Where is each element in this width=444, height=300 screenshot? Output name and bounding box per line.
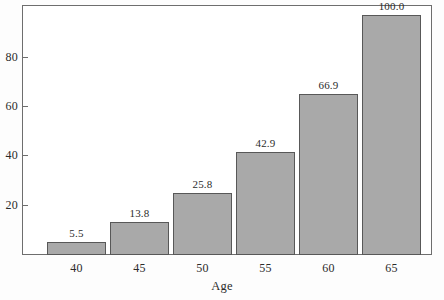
bars-layer <box>22 5 432 255</box>
x-tick-label-55: 55 <box>236 261 295 276</box>
y-tick-label-40: 40 <box>0 148 18 163</box>
bar-value-label-50: 25.8 <box>173 178 232 190</box>
bar-age-55[interactable] <box>236 152 295 255</box>
bar-age-50[interactable] <box>173 193 232 255</box>
bar-age-40[interactable] <box>47 242 106 255</box>
x-tick-label-40: 40 <box>47 261 106 276</box>
bar-age-60[interactable] <box>299 94 358 255</box>
x-tick-label-65: 65 <box>362 261 421 276</box>
x-tick-label-45: 45 <box>110 261 169 276</box>
x-axis-title: Age <box>0 279 444 294</box>
y-tick-label-80: 80 <box>0 50 18 65</box>
bar-value-label-65: 100.0 <box>362 0 421 12</box>
y-tick-label-20: 20 <box>0 198 18 213</box>
bar-value-label-45: 13.8 <box>110 207 169 219</box>
bar-chart-figure: 20 40 60 80 5.5 13.8 25.8 42.9 66.9 100.… <box>0 0 444 300</box>
bar-value-label-60: 66.9 <box>299 79 358 91</box>
x-tick-label-50: 50 <box>173 261 232 276</box>
bar-age-65[interactable] <box>362 15 421 255</box>
bar-value-label-40: 5.5 <box>47 227 106 239</box>
bar-age-45[interactable] <box>110 222 169 255</box>
y-tick-label-60: 60 <box>0 99 18 114</box>
x-tick-label-60: 60 <box>299 261 358 276</box>
bar-value-label-55: 42.9 <box>236 137 295 149</box>
